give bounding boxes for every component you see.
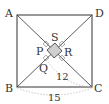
- measure-qc: 12: [56, 71, 69, 82]
- label-r: R: [64, 46, 73, 59]
- label-p: P: [36, 45, 44, 58]
- measure-bc: 15: [48, 92, 61, 103]
- label-a: A: [4, 7, 14, 20]
- label-s: S: [51, 31, 59, 44]
- label-c: C: [94, 82, 102, 95]
- label-b: B: [5, 82, 13, 95]
- right-angle-mark-p: [43, 41, 49, 47]
- label-q: Q: [39, 62, 48, 75]
- geometry-diagram: A D B C P Q R S 12 15: [0, 0, 109, 104]
- label-d: D: [95, 7, 104, 20]
- right-angle-mark-q: [43, 55, 49, 61]
